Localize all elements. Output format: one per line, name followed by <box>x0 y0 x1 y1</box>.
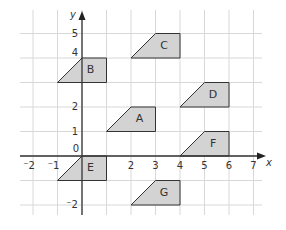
coordinate-grid-diagram: ABCDEFG x y 0 ⁻2⁻12345675421⁻2 <box>0 0 286 230</box>
y-tick-label: ⁻2 <box>66 199 78 210</box>
y-tick-label: 2 <box>72 101 78 112</box>
trapezoid-shape <box>107 107 156 132</box>
trapezoid-shape <box>131 34 180 59</box>
shape-label: G <box>160 186 169 199</box>
shape-a: A <box>107 107 156 132</box>
y-tick-label: 5 <box>72 28 78 39</box>
y-tick-label: 1 <box>72 126 78 137</box>
x-tick-label: 5 <box>201 160 207 171</box>
trapezoid-shape <box>180 83 229 108</box>
x-tick-label: ⁻2 <box>23 160 35 171</box>
shape-label: E <box>87 161 94 174</box>
x-tick-label: ⁻1 <box>48 160 60 171</box>
origin-label: 0 <box>73 143 79 154</box>
shape-label: A <box>136 112 144 125</box>
shape-label: B <box>87 63 95 76</box>
y-axis-arrow-icon <box>79 11 86 20</box>
x-tick-label: 7 <box>250 160 256 171</box>
y-axis-label: y <box>69 9 77 20</box>
x-tick-label: 3 <box>152 160 158 171</box>
shape-f: F <box>180 132 229 157</box>
trapezoid-shape <box>131 181 180 206</box>
shapes-group: ABCDEFG <box>58 34 230 206</box>
y-tick-label: 4 <box>72 47 78 58</box>
x-tick-label: 4 <box>177 160 183 171</box>
x-tick-label: 2 <box>128 160 134 171</box>
shape-g: G <box>131 181 180 206</box>
shape-label: C <box>160 39 168 52</box>
x-tick-label: 6 <box>226 160 232 171</box>
shape-c: C <box>131 34 180 59</box>
x-axis-label: x <box>265 157 272 168</box>
x-axis-arrow-icon <box>257 153 266 160</box>
shape-label: D <box>209 88 217 101</box>
shape-d: D <box>180 83 229 108</box>
trapezoid-shape <box>180 132 229 157</box>
shape-label: F <box>210 137 216 150</box>
